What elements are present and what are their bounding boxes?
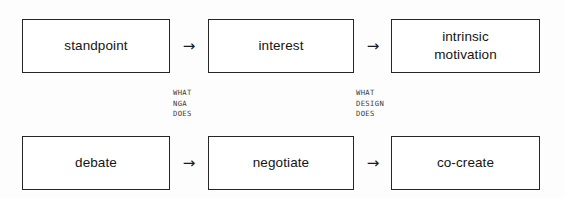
node-label: intrinsic motivation (434, 28, 497, 64)
arrow-right-icon: → (179, 153, 199, 173)
node-standpoint[interactable]: standpoint (22, 19, 170, 73)
node-co-create[interactable]: co-create (391, 136, 540, 190)
arrow-right-icon: → (363, 153, 383, 173)
node-label: standpoint (64, 37, 127, 55)
flow-diagram: standpoint → interest → intrinsic motiva… (0, 0, 565, 198)
arrow-right-icon: → (179, 36, 199, 56)
node-interest[interactable]: interest (208, 19, 354, 73)
annotation-what-nga-does: WHAT NGA DOES (173, 88, 192, 120)
node-label: debate (75, 154, 117, 172)
node-label: interest (258, 37, 303, 55)
node-debate[interactable]: debate (22, 136, 170, 190)
node-intrinsic-motivation[interactable]: intrinsic motivation (391, 19, 540, 73)
annotation-what-design-does: WHAT DESIGN DOES (356, 88, 384, 120)
arrow-right-icon: → (363, 36, 383, 56)
node-negotiate[interactable]: negotiate (208, 136, 354, 190)
node-label: co-create (437, 154, 494, 172)
node-label: negotiate (253, 154, 309, 172)
